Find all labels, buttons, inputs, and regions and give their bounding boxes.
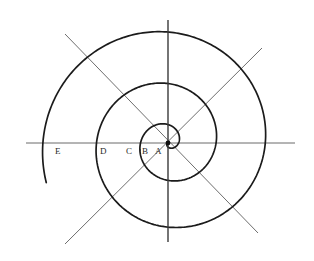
figure-background <box>0 0 314 261</box>
spiral-center-point <box>166 141 171 146</box>
label-e: E <box>55 146 61 156</box>
label-b: B <box>142 146 148 156</box>
spiral-figure-container: EDCBA <box>0 0 314 261</box>
label-c: C <box>126 146 132 156</box>
label-a: A <box>155 146 162 156</box>
label-d: D <box>100 146 107 156</box>
spiral-diagram: EDCBA <box>0 0 314 261</box>
